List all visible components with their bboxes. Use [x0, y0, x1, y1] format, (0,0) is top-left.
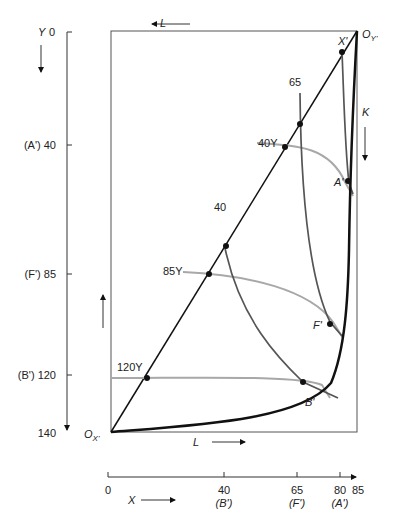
- point-40y: [282, 144, 288, 150]
- x-isoquants: [225, 52, 353, 398]
- point-b-prime: [300, 379, 306, 385]
- x-tick-80: 80: [334, 484, 346, 496]
- K-label: K: [362, 106, 370, 118]
- x-tick-40: 40: [218, 484, 230, 496]
- origin-x: OX': [84, 428, 100, 443]
- y-tick-0: 0: [49, 26, 55, 38]
- point-x-prime: [339, 49, 345, 55]
- edgeworth-box-diagram: Y 0 (A') 40 (F') 85 (B') 120 140 L K OY'…: [0, 0, 405, 526]
- x-axis: 0 40 65 80 85 (B') (F') (A') X: [105, 472, 364, 509]
- label-x-prime: X': [337, 35, 348, 47]
- label-85y: 85Y: [163, 265, 183, 277]
- label-b-prime: B': [305, 396, 315, 408]
- x-tick-85: 85: [352, 484, 364, 496]
- x-axis-title: X: [127, 494, 136, 506]
- top-L-label: L: [160, 17, 166, 29]
- x-sub-80: (A'): [332, 497, 349, 509]
- y-tick-85: (F') 85: [25, 268, 56, 280]
- label-40y: 40Y: [258, 137, 278, 149]
- label-65x: 65: [289, 76, 301, 88]
- y-axis: Y 0 (A') 40 (F') 85 (B') 120 140: [18, 26, 72, 439]
- label-f-prime: F': [313, 319, 323, 331]
- bottom-L-label: L: [193, 436, 199, 448]
- point-40x: [223, 243, 229, 249]
- label-120y: 120Y: [117, 361, 143, 373]
- x-sub-65: (F'): [289, 497, 305, 509]
- y-tick-140: 140: [38, 427, 56, 439]
- diagonal-line: [111, 31, 357, 432]
- x-sub-40: (B'): [216, 497, 233, 509]
- x-tick-65: 65: [291, 484, 303, 496]
- x-tick-0: 0: [105, 484, 111, 496]
- point-a-prime: [345, 178, 351, 184]
- point-f-prime: [327, 321, 333, 327]
- label-40x: 40: [214, 201, 226, 213]
- origin-y: OY': [362, 28, 378, 43]
- y-tick-40: (A') 40: [24, 139, 56, 151]
- point-85y: [206, 271, 212, 277]
- points: [144, 49, 351, 385]
- y-tick-120: (B') 120: [18, 369, 56, 381]
- y-axis-title: Y: [38, 26, 46, 38]
- point-120y: [144, 375, 150, 381]
- label-a-prime: A': [333, 176, 344, 188]
- point-65x: [297, 121, 303, 127]
